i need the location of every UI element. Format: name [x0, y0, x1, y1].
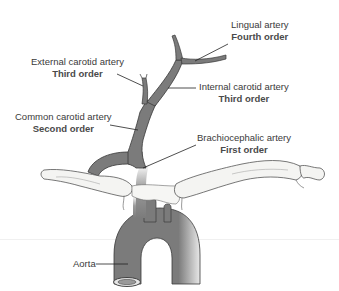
label-brachiocephalic-artery: Brachiocephalic artery First order — [197, 132, 291, 155]
label-internal-carotid-artery: Internal carotid artery Third order — [199, 81, 289, 104]
label-name: Internal carotid artery — [199, 81, 289, 93]
bones — [41, 161, 325, 211]
label-order: Second order — [15, 123, 112, 135]
label-order: Fourth order — [231, 31, 289, 43]
label-lingual-artery: Lingual artery Fourth order — [231, 19, 289, 42]
label-aorta: Aorta — [73, 258, 96, 270]
label-common-carotid-artery: Common carotid artery Second order — [15, 111, 112, 134]
label-name: Lingual artery — [231, 19, 289, 31]
label-name: External carotid artery — [31, 56, 124, 68]
label-name: Brachiocephalic artery — [197, 132, 291, 144]
label-name: Common carotid artery — [15, 111, 112, 123]
leader-common — [110, 125, 138, 130]
label-order: Third order — [31, 68, 124, 80]
label-order: First order — [197, 144, 291, 156]
label-order: Third order — [199, 93, 289, 105]
label-name: Aorta — [73, 258, 96, 270]
leader-brachio — [143, 145, 196, 168]
aorta-vessel — [114, 208, 201, 287]
label-external-carotid-artery: External carotid artery Third order — [31, 56, 124, 79]
